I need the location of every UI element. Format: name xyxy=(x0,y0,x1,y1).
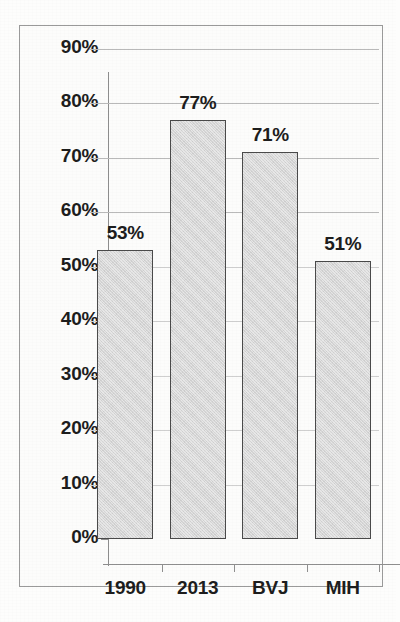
x-axis-tick xyxy=(379,564,380,572)
x-axis-tick-label: MIH xyxy=(293,577,393,599)
y-axis-tick-label: 0% xyxy=(38,526,98,548)
y-axis-tick-label: 80% xyxy=(38,90,98,112)
bar-value-label: 77% xyxy=(153,92,243,114)
y-axis-tick-label: 90% xyxy=(38,36,98,58)
bar-value-label: 53% xyxy=(80,222,170,244)
y-axis-tick-label: 60% xyxy=(38,199,98,221)
bar-value-label: 51% xyxy=(298,233,388,255)
y-axis-tick-label: 70% xyxy=(38,145,98,167)
x-axis-tick xyxy=(234,564,235,572)
bar[interactable] xyxy=(242,152,298,539)
y-axis-tick-label: 40% xyxy=(38,308,98,330)
x-axis-tick xyxy=(162,564,163,572)
y-axis-tick-labels: 0%10%20%30%40%50%60%70%80%90% xyxy=(34,26,98,586)
x-axis-tick xyxy=(307,564,308,572)
bar[interactable] xyxy=(97,250,153,539)
y-axis-tick-label: 30% xyxy=(38,363,98,385)
y-axis-tick-label: 20% xyxy=(38,417,98,439)
chart-frame: 0%10%20%30%40%50%60%70%80%90% 53%77%71%5… xyxy=(19,25,383,587)
bar[interactable] xyxy=(315,261,371,539)
bar[interactable] xyxy=(170,120,226,539)
bar-value-label: 71% xyxy=(225,124,315,146)
gridline xyxy=(89,49,379,50)
y-axis-tick-label: 50% xyxy=(38,254,98,276)
category-axis-line xyxy=(103,564,400,565)
y-axis-tick-label: 10% xyxy=(38,472,98,494)
